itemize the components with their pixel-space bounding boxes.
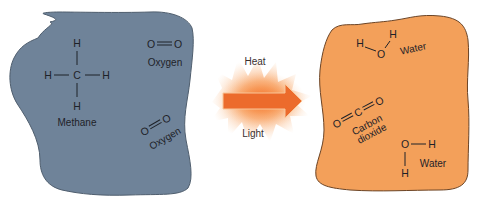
water-2-h-right: H — [428, 138, 436, 150]
oxygen-1-atom-b: O — [174, 38, 182, 50]
water-2-o: O — [401, 138, 409, 150]
methane-h-bottom: H — [73, 100, 81, 112]
methane-h-top: H — [73, 37, 81, 49]
water-2-h-bottom: H — [401, 167, 409, 179]
products-region: H O H Water O C O Carbon dioxide O H H W — [316, 15, 469, 190]
methane-h-left: H — [44, 69, 52, 81]
methane-h-right: H — [102, 69, 110, 81]
reaction-arrow-group: Heat Light — [210, 56, 312, 142]
light-label: Light — [242, 128, 264, 139]
oxygen-1-label: Oxygen — [148, 57, 182, 68]
oxygen-1-atom-a: O — [147, 38, 155, 50]
water-2-label: Water — [420, 158, 447, 169]
combustion-diagram: H H C H H Methane O O Oxygen O O Oxygen — [0, 0, 480, 209]
heat-label: Heat — [244, 56, 265, 67]
reactants-region: H H C H H Methane O O Oxygen O O Oxygen — [10, 12, 193, 195]
water-1-o: O — [377, 48, 385, 60]
water-1-h-left: H — [356, 37, 364, 49]
water-1-h-right: H — [389, 28, 397, 40]
reactants-blob — [10, 12, 193, 195]
methane-c-center: C — [73, 69, 81, 81]
methane-label: Methane — [58, 117, 97, 128]
